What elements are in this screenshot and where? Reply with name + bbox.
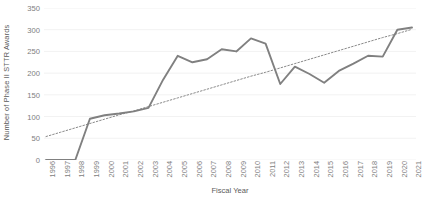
x-tick-label: 2014 (313, 161, 320, 177)
x-tick-label: 2015 (327, 161, 334, 177)
y-tick-label: 150 (14, 90, 40, 99)
x-tick-label: 2016 (342, 161, 349, 177)
y-tick-label: 250 (14, 47, 40, 56)
plot-area (44, 8, 416, 160)
x-tick-label: 2001 (122, 161, 129, 177)
y-tick-label: 350 (14, 4, 40, 13)
x-tick-label: 2017 (357, 161, 364, 177)
x-tick-label: 2000 (108, 161, 115, 177)
y-tick-label: 50 (14, 134, 40, 143)
x-tick-label: 2007 (210, 161, 217, 177)
y-axis-tick-labels: 050100150200250300350 (14, 0, 40, 199)
x-tick-label: 1996 (49, 161, 56, 177)
y-tick-label: 200 (14, 69, 40, 78)
x-tick-label: 2019 (386, 161, 393, 177)
x-tick-label: 2009 (240, 161, 247, 177)
x-tick-label: 2018 (371, 161, 378, 177)
trendline-series (46, 29, 412, 136)
x-tick-label: 2021 (415, 161, 422, 177)
x-tick-label: 2011 (269, 161, 276, 177)
x-tick-label: 2008 (225, 161, 232, 177)
x-tick-label: 2002 (137, 161, 144, 177)
y-tick-label: 300 (14, 25, 40, 34)
y-tick-label: 100 (14, 112, 40, 121)
gridlines (44, 8, 416, 160)
x-tick-label: 1998 (78, 161, 85, 177)
x-tick-label: 1997 (64, 161, 71, 177)
y-axis-title: Number of Phase II STTR Awards (0, 0, 14, 165)
data-series-line (46, 28, 412, 160)
x-tick-label: 2013 (298, 161, 305, 177)
x-axis-title: Fiscal Year (44, 186, 416, 195)
x-tick-label: 2005 (181, 161, 188, 177)
y-axis-title-text: Number of Phase II STTR Awards (3, 25, 12, 141)
plot-canvas (44, 8, 416, 160)
x-tick-label: 2010 (254, 161, 261, 177)
x-tick-label: 2006 (196, 161, 203, 177)
y-tick-label: 0 (14, 156, 40, 165)
x-tick-label: 1999 (93, 161, 100, 177)
x-tick-label: 2020 (401, 161, 408, 177)
x-axis-tick-labels: 1996199719981999200020012002200320042005… (44, 161, 416, 187)
x-tick-label: 2003 (152, 161, 159, 177)
x-tick-label: 2004 (166, 161, 173, 177)
x-tick-label: 2012 (283, 161, 290, 177)
